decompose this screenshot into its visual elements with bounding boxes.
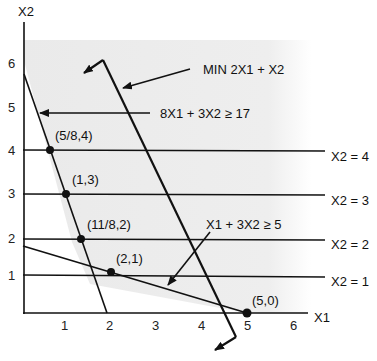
x-tick-4: 4 bbox=[198, 318, 205, 333]
point-5-0 bbox=[243, 309, 252, 318]
y-tick-1: 1 bbox=[8, 268, 15, 283]
point-label-1-3: (1,3) bbox=[72, 172, 99, 187]
c2-label: X1 + 3X2 ≥ 5 bbox=[206, 217, 281, 232]
x-tick-2: 2 bbox=[106, 318, 113, 333]
x-tick-6: 6 bbox=[290, 318, 297, 333]
point-1-3 bbox=[62, 190, 70, 198]
line-x2-2 bbox=[23, 239, 325, 240]
y-tick-5: 5 bbox=[8, 100, 15, 115]
point-2-1 bbox=[107, 268, 115, 276]
objective-arrow-down bbox=[215, 337, 236, 350]
x-tick-1: 1 bbox=[61, 318, 68, 333]
x-tick-3: 3 bbox=[152, 318, 159, 333]
lp-diagram: X2 X1 6 5 4 3 2 1 1 2 3 4 5 6 X2 = 4 X2 … bbox=[0, 0, 377, 361]
y-axis-label: X2 bbox=[18, 4, 34, 19]
point-label-2-1: (2,1) bbox=[116, 251, 143, 266]
label-x2-2: X2 = 2 bbox=[331, 237, 369, 252]
c1-label: 8X1 + 3X2 ≥ 17 bbox=[160, 106, 250, 121]
line-x2-4 bbox=[23, 150, 325, 151]
point-label-5-8-4: (5/8,4) bbox=[55, 128, 93, 143]
y-tick-3: 3 bbox=[8, 186, 15, 201]
y-tick-6: 6 bbox=[8, 56, 15, 71]
point-11-8-2 bbox=[77, 235, 85, 243]
x-axis-label: X1 bbox=[314, 310, 330, 325]
label-x2-4: X2 = 4 bbox=[331, 149, 369, 164]
point-5-8-4 bbox=[46, 146, 54, 154]
y-tick-2: 2 bbox=[8, 231, 15, 246]
label-x2-1: X2 = 1 bbox=[331, 274, 369, 289]
point-label-11-8-2: (11/8,2) bbox=[87, 217, 131, 232]
objective-label: MIN 2X1 + X2 bbox=[203, 62, 284, 77]
y-tick-4: 4 bbox=[8, 143, 15, 158]
point-label-5-0: (5,0) bbox=[252, 293, 279, 308]
x-tick-5: 5 bbox=[244, 318, 251, 333]
label-x2-3: X2 = 3 bbox=[331, 193, 369, 208]
